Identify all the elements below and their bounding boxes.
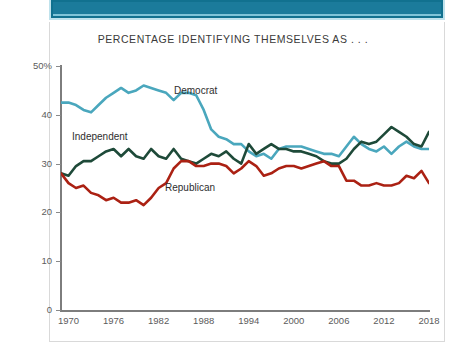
x-axis-line	[60, 310, 430, 312]
x-tick-label: 1988	[181, 315, 227, 326]
y-tick-label: 40	[18, 109, 52, 120]
x-tick-label: 1976	[91, 315, 137, 326]
banner-inner-fill	[53, 2, 441, 16]
x-tick-label: 1970	[46, 315, 92, 326]
x-tick-label: 1982	[136, 315, 182, 326]
plot-area	[61, 66, 429, 310]
chart-title: PERCENTAGE IDENTIFYING THEMSELVES AS . .…	[0, 33, 466, 45]
series-label-independent: Independent	[72, 131, 128, 142]
top-teal-banner	[49, 0, 445, 20]
series-line-republican	[61, 161, 429, 205]
series-label-democrat: Democrat	[174, 85, 217, 96]
y-tick-label: 10	[18, 255, 52, 266]
x-tick-label: 2000	[271, 315, 317, 326]
y-tick-mark	[56, 310, 61, 311]
x-tick-label: 2006	[316, 315, 362, 326]
series-line-democrat	[61, 86, 429, 159]
x-tick-label: 1994	[226, 315, 272, 326]
series-label-republican: Republican	[165, 182, 215, 193]
chart-page: PERCENTAGE IDENTIFYING THEMSELVES AS . .…	[0, 0, 466, 355]
y-tick-label: 30	[18, 158, 52, 169]
y-tick-label: 50%	[18, 60, 52, 71]
x-tick-label: 2018	[406, 315, 452, 326]
series-lines	[61, 66, 429, 310]
x-tick-label: 2012	[361, 315, 407, 326]
y-tick-label: 20	[18, 206, 52, 217]
y-tick-label: 0	[18, 304, 52, 315]
